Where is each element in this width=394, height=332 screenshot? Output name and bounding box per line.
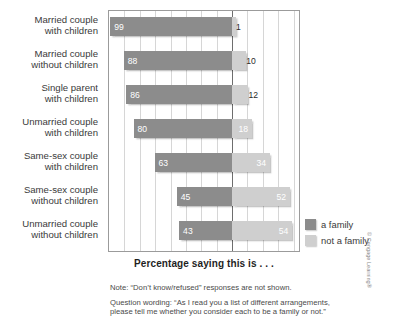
bar-not-a-family: 12 xyxy=(232,85,248,104)
category-label: Single parent with children xyxy=(0,76,104,110)
bar-a-family: 86 xyxy=(126,85,232,104)
footnotes: Note: “Don’t know/refused” responses are… xyxy=(110,283,372,322)
category-label: Married couple without children xyxy=(0,42,104,76)
bar-a-family: 43 xyxy=(179,221,232,240)
legend-swatch-a-family xyxy=(305,219,316,230)
category-label-line2: with children xyxy=(45,25,98,36)
legend-label-a-family: a family xyxy=(321,219,353,230)
bar-not-a-family: 54 xyxy=(232,221,292,240)
bar-a-family: 63 xyxy=(155,153,232,172)
bar-row: 6334 xyxy=(109,147,299,181)
category-label-line1: Same-sex couple xyxy=(24,184,98,195)
legend-label-not-a-family: not a family xyxy=(321,235,369,246)
category-label-line2: without children xyxy=(31,59,98,70)
category-label-line1: Married couple xyxy=(35,48,98,59)
category-label: Unmarried couple without children xyxy=(0,212,104,246)
category-label: Same-sex couple without children xyxy=(0,178,104,212)
note-question-line1: Question wording: “As I read you a list … xyxy=(110,298,372,308)
bar-row: 8810 xyxy=(109,45,299,79)
note-dont-know: Note: “Don’t know/refused” responses are… xyxy=(110,283,372,293)
legend-swatch-not-a-family xyxy=(305,235,316,246)
category-label: Same-sex couple with children xyxy=(0,144,104,178)
bar-row: 4354 xyxy=(109,215,299,249)
bar-a-family: 88 xyxy=(124,51,232,70)
bar-a-family: 99 xyxy=(110,17,232,36)
bar-not-a-family: 34 xyxy=(232,153,270,172)
category-label-column: Married couple with children Married cou… xyxy=(0,8,104,246)
bar-row: 4552 xyxy=(109,181,299,215)
category-label-line2: with children xyxy=(45,161,98,172)
category-label-line1: Single parent xyxy=(41,82,98,93)
bar-a-family: 45 xyxy=(177,187,232,206)
note-question-line2: please tell me whether you consider each… xyxy=(110,307,372,317)
bar-not-a-family: 52 xyxy=(232,187,290,206)
category-label-line2: without children xyxy=(31,195,98,206)
copyright-credit: © Cengage Learning® xyxy=(366,232,372,288)
chart-figure: Married couple with children Married cou… xyxy=(0,0,394,332)
legend-item-a-family: a family xyxy=(305,219,369,230)
category-label-line1: Same-sex couple xyxy=(24,150,98,161)
category-label-line1: Unmarried couple xyxy=(22,116,98,127)
bar-not-a-family: 1 xyxy=(232,17,236,36)
category-label-line1: Unmarried couple xyxy=(22,218,98,229)
category-label-line1: Married couple xyxy=(35,14,98,25)
category-label-line2: without children xyxy=(31,229,98,240)
legend: a family not a family xyxy=(305,219,369,251)
bar-row: 8612 xyxy=(109,79,299,113)
plot-area: 991881086128018633445524354 xyxy=(108,10,300,252)
bar-row: 991 xyxy=(109,11,299,45)
note-question-wording: Question wording: “As I read you a list … xyxy=(110,298,372,317)
bar-a-family: 80 xyxy=(134,119,232,138)
bar-rows: 991881086128018633445524354 xyxy=(109,11,299,251)
category-label: Unmarried couple with children xyxy=(0,110,104,144)
bar-row: 8018 xyxy=(109,113,299,147)
bar-not-a-family: 10 xyxy=(232,51,246,70)
category-label: Married couple with children xyxy=(0,8,104,42)
category-label-line2: with children xyxy=(45,93,98,104)
bar-not-a-family: 18 xyxy=(232,119,252,138)
legend-item-not-a-family: not a family xyxy=(305,235,369,246)
x-axis-title: Percentage saying this is . . . xyxy=(108,258,300,269)
category-label-line2: with children xyxy=(45,127,98,138)
